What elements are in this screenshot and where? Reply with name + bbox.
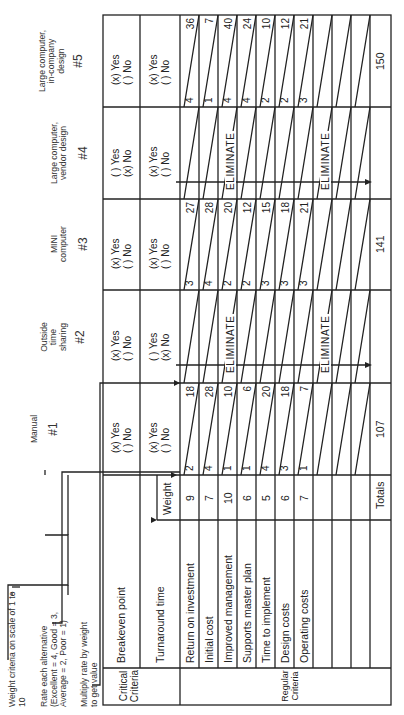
regular-row-label: Design costs (280, 603, 292, 663)
alt2-eliminate-label: ELIMINATE (225, 314, 236, 375)
alt1-rate: 4 (203, 465, 214, 471)
alt1-rate: 4 (260, 465, 271, 471)
alt1-total: 107 (375, 420, 387, 438)
regular-row-label: Operating costs (299, 589, 311, 663)
regular-row-label: Return on investment (185, 563, 197, 663)
critical-row-turnaround: Turnaround time (155, 586, 167, 663)
alt3-turnaround-yesno: (x) Yes ( ) No (148, 238, 171, 269)
alt3-value: 15 (261, 202, 272, 226)
alt5-value: 21 (299, 18, 310, 42)
alt5-value: 24 (242, 18, 253, 42)
alt3-rate: 3 (298, 280, 309, 286)
critical-criteria-label: Critical Criteria (118, 669, 140, 703)
alt5-total: 150 (375, 52, 387, 70)
alt2-turnaround-yesno: ( ) Yes (x) No (148, 333, 171, 361)
alt5-rate: 2 (279, 97, 290, 103)
alt5-rate: 1 (203, 97, 214, 103)
regular-row-weight: 7 (204, 495, 216, 501)
alt5-rate: 3 (298, 97, 309, 103)
alt5-value: 10 (261, 18, 272, 42)
alt3-rate: 2 (241, 280, 252, 286)
alt3-value: 20 (223, 202, 234, 226)
regular-row-label: Initial cost (204, 616, 216, 663)
alt1-rate: 3 (279, 465, 290, 471)
alt3-rate: 3 (260, 280, 271, 286)
alt5-value: 40 (223, 18, 234, 42)
alt1-value: 18 (185, 386, 196, 410)
alt5-rate: 4 (222, 97, 233, 103)
regular-row-label: Improved management (223, 555, 235, 663)
alt1-value: 28 (204, 386, 215, 410)
alt5-rate: 4 (241, 97, 252, 103)
alt1-value: 18 (280, 386, 291, 410)
alt3-value: 28 (204, 202, 215, 226)
critical-row-breakeven: Breakeven point (116, 587, 128, 663)
regular-row-weight: 10 (223, 492, 235, 504)
alt1-rate: 2 (184, 465, 195, 471)
alt1-value: 10 (223, 386, 234, 410)
alt4-breakeven-yesno: ( ) Yes (x) No (110, 149, 133, 177)
alt4-eliminate-label: ELIMINATE (225, 131, 236, 192)
alt2-breakeven-yesno: (x) Yes ( ) No (110, 330, 133, 361)
alt1-turnaround-yesno: (x) Yes ( ) No (148, 422, 171, 453)
alt3-rate: 2 (222, 280, 233, 286)
alt5-rate: 2 (260, 97, 271, 103)
alt5-value: 36 (185, 18, 196, 42)
regular-row-label: Time to implement (261, 577, 273, 663)
alt3-rate: 3 (279, 280, 290, 286)
regular-row-weight: 6 (280, 495, 292, 501)
alt3-rate: 4 (203, 280, 214, 286)
alt3-value: 18 (280, 202, 291, 226)
alt4-eliminate-label-2: ELIMINATE (320, 131, 331, 192)
alt3-value: 12 (242, 202, 253, 226)
alt1-value: 20 (261, 386, 272, 410)
regular-row-weight: 5 (261, 495, 273, 501)
totals-label: Totals (375, 482, 387, 509)
alt1-rate: 1 (298, 465, 309, 471)
alt3-value: 27 (185, 202, 196, 226)
weight-header: Weight (162, 483, 174, 516)
alt5-turnaround-yesno: (x) Yes ( ) No (148, 54, 171, 85)
alt3-rate: 3 (184, 280, 195, 286)
alt2-eliminate-label-2: ELIMINATE (320, 314, 331, 375)
regular-row-weight: 7 (299, 495, 311, 501)
alt1-breakeven-yesno: (x) Yes ( ) No (110, 422, 133, 453)
regular-row-label: Supports master plan (242, 563, 254, 663)
alt5-breakeven-yesno: (x) Yes ( ) No (110, 54, 133, 85)
alt1-rate: 1 (222, 465, 233, 471)
table-grid (0, 0, 404, 715)
regular-criteria-label: Regular Criteria (280, 669, 300, 703)
alt5-value: 12 (280, 18, 291, 42)
alt3-breakeven-yesno: (x) Yes ( ) No (110, 238, 133, 269)
alt3-total: 141 (375, 235, 387, 253)
alt1-value: 6 (242, 386, 253, 410)
regular-row-weight: 9 (185, 495, 197, 501)
alt4-turnaround-yesno: (x) Yes ( ) No (148, 146, 171, 177)
alt5-rate: 4 (184, 97, 195, 103)
regular-row-weight: 6 (242, 495, 254, 501)
alt1-rate: 1 (241, 465, 252, 471)
alt1-value: 7 (299, 386, 310, 410)
rotated-evaluation-matrix-page: Weight criteria on scale of 1 to 10 Rate… (0, 0, 404, 715)
alt5-value: 7 (204, 18, 215, 42)
alt3-value: 21 (299, 202, 310, 226)
